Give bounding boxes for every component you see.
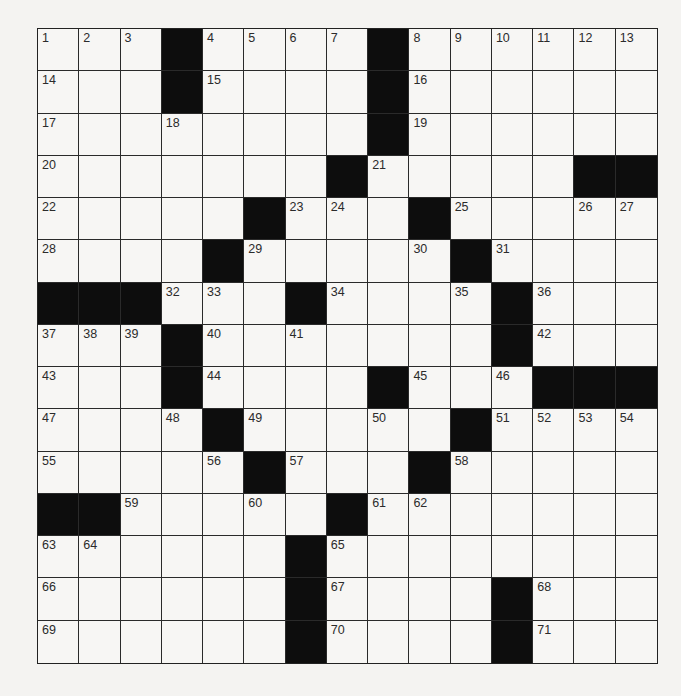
grid-cell[interactable]: 64 [79,536,120,578]
grid-cell[interactable] [244,578,285,620]
grid-cell[interactable]: 65 [327,536,368,578]
grid-cell[interactable] [451,156,492,198]
grid-cell[interactable] [203,156,244,198]
grid-cell[interactable] [616,536,657,578]
grid-cell[interactable]: 67 [327,578,368,620]
grid-cell[interactable] [616,325,657,367]
grid-cell[interactable]: 18 [162,114,203,156]
grid-cell[interactable] [79,156,120,198]
grid-cell[interactable] [492,452,533,494]
grid-cell[interactable] [574,283,615,325]
grid-cell[interactable] [574,536,615,578]
grid-cell[interactable] [121,536,162,578]
grid-cell[interactable] [616,71,657,113]
grid-cell[interactable] [79,621,120,663]
grid-cell[interactable]: 28 [38,240,79,282]
grid-cell[interactable]: 3 [121,29,162,71]
grid-cell[interactable] [121,367,162,409]
grid-cell[interactable]: 19 [409,114,450,156]
grid-cell[interactable] [244,156,285,198]
grid-cell[interactable]: 42 [533,325,574,367]
grid-cell[interactable]: 30 [409,240,450,282]
grid-cell[interactable]: 8 [409,29,450,71]
grid-cell[interactable] [121,198,162,240]
grid-cell[interactable] [79,409,120,451]
grid-cell[interactable] [616,114,657,156]
grid-cell[interactable] [368,536,409,578]
grid-cell[interactable]: 55 [38,452,79,494]
grid-cell[interactable] [368,283,409,325]
grid-cell[interactable]: 13 [616,29,657,71]
grid-cell[interactable] [79,367,120,409]
grid-cell[interactable]: 46 [492,367,533,409]
grid-cell[interactable] [409,325,450,367]
grid-cell[interactable]: 53 [574,409,615,451]
grid-cell[interactable] [244,367,285,409]
grid-cell[interactable]: 70 [327,621,368,663]
grid-cell[interactable]: 10 [492,29,533,71]
grid-cell[interactable] [121,156,162,198]
grid-cell[interactable]: 39 [121,325,162,367]
grid-cell[interactable] [616,621,657,663]
grid-cell[interactable] [368,325,409,367]
grid-cell[interactable] [409,621,450,663]
grid-cell[interactable] [162,536,203,578]
grid-cell[interactable] [121,240,162,282]
grid-cell[interactable] [409,156,450,198]
grid-cell[interactable]: 22 [38,198,79,240]
grid-cell[interactable] [451,621,492,663]
grid-cell[interactable]: 15 [203,71,244,113]
grid-cell[interactable]: 12 [574,29,615,71]
grid-cell[interactable] [533,240,574,282]
grid-cell[interactable] [162,240,203,282]
grid-cell[interactable]: 44 [203,367,244,409]
grid-cell[interactable] [616,452,657,494]
grid-cell[interactable] [574,494,615,536]
grid-cell[interactable]: 43 [38,367,79,409]
grid-cell[interactable] [451,367,492,409]
grid-cell[interactable] [368,452,409,494]
grid-cell[interactable] [574,71,615,113]
grid-cell[interactable]: 61 [368,494,409,536]
grid-cell[interactable]: 69 [38,621,79,663]
grid-cell[interactable] [533,198,574,240]
grid-cell[interactable] [162,621,203,663]
grid-cell[interactable]: 60 [244,494,285,536]
grid-cell[interactable] [162,578,203,620]
grid-cell[interactable] [327,325,368,367]
grid-cell[interactable]: 1 [38,29,79,71]
grid-cell[interactable] [244,71,285,113]
grid-cell[interactable] [451,494,492,536]
grid-cell[interactable] [121,578,162,620]
grid-cell[interactable]: 40 [203,325,244,367]
grid-cell[interactable] [244,114,285,156]
grid-cell[interactable] [533,494,574,536]
grid-cell[interactable] [409,409,450,451]
grid-cell[interactable]: 27 [616,198,657,240]
grid-cell[interactable]: 34 [327,283,368,325]
grid-cell[interactable] [574,578,615,620]
grid-cell[interactable] [492,536,533,578]
grid-cell[interactable] [203,578,244,620]
grid-cell[interactable]: 71 [533,621,574,663]
grid-cell[interactable]: 31 [492,240,533,282]
grid-cell[interactable] [327,409,368,451]
grid-cell[interactable] [616,240,657,282]
grid-cell[interactable] [574,114,615,156]
grid-cell[interactable]: 6 [286,29,327,71]
grid-cell[interactable] [286,409,327,451]
grid-cell[interactable]: 52 [533,409,574,451]
grid-cell[interactable]: 24 [327,198,368,240]
grid-cell[interactable]: 2 [79,29,120,71]
grid-cell[interactable]: 56 [203,452,244,494]
grid-cell[interactable] [327,367,368,409]
grid-cell[interactable] [121,114,162,156]
grid-cell[interactable] [368,240,409,282]
grid-cell[interactable] [203,536,244,578]
grid-cell[interactable]: 25 [451,198,492,240]
grid-cell[interactable] [121,621,162,663]
grid-cell[interactable] [533,114,574,156]
grid-cell[interactable] [162,198,203,240]
grid-cell[interactable]: 26 [574,198,615,240]
grid-cell[interactable] [203,198,244,240]
